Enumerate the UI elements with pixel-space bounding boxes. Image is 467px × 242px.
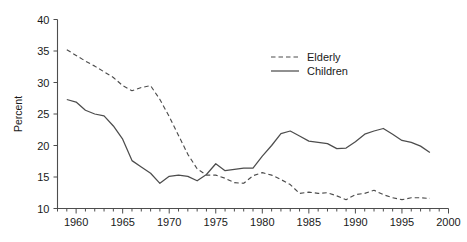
x-tick-label: 1960 [64, 216, 88, 228]
y-tick-label: 40 [37, 14, 49, 26]
y-tick-label: 15 [37, 171, 49, 183]
x-tick-label: 2000 [436, 216, 460, 228]
y-axis-ticks: 10152025303540 [37, 14, 57, 215]
y-axis-title: Percent [12, 96, 24, 132]
x-tick-label: 1985 [297, 216, 321, 228]
y-tick-label: 35 [37, 45, 49, 57]
chart-legend: ElderlyChildren [271, 51, 348, 77]
x-tick-label: 1965 [110, 216, 134, 228]
axes [58, 20, 449, 209]
legend-label-children: Children [307, 65, 348, 77]
y-tick-label: 20 [37, 140, 49, 152]
y-tick-label: 25 [37, 108, 49, 120]
chart-canvas: 10152025303540 1960196519701975198019851… [0, 0, 467, 242]
x-axis-ticks: 196019651970197519801985199019952000 [58, 209, 461, 228]
data-series [67, 50, 430, 200]
legend-label-elderly: Elderly [307, 51, 341, 63]
poverty-rate-line-chart: 10152025303540 1960196519701975198019851… [0, 0, 467, 242]
y-tick-label: 10 [37, 203, 49, 215]
series-line-children [67, 100, 430, 184]
axis-spine [58, 20, 449, 209]
x-tick-label: 1980 [250, 216, 274, 228]
x-tick-label: 1990 [343, 216, 367, 228]
x-tick-label: 1975 [204, 216, 228, 228]
x-tick-label: 1970 [157, 216, 181, 228]
y-tick-label: 30 [37, 77, 49, 89]
series-line-elderly [67, 50, 430, 200]
x-tick-label: 1995 [390, 216, 414, 228]
